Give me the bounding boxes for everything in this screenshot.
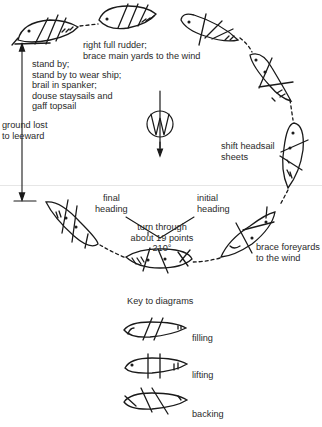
track-path <box>80 24 98 26</box>
shift-headsail-line: sheets <box>221 152 275 163</box>
ship-hull-5 <box>280 123 308 188</box>
brace-foreyards-line: to the wind <box>256 253 320 264</box>
stand-by-line: douse staysails and <box>32 91 121 102</box>
initial-heading-label: initial heading <box>197 193 230 214</box>
turn-line: turn through <box>127 222 197 233</box>
brace-foreyards-line: brace foreyards <box>256 242 320 253</box>
brace-foreyards-label: brace foreyards to the wind <box>256 242 320 263</box>
ground-lost-label: ground lost to leeward <box>2 120 47 141</box>
ground-lost-line: ground lost <box>2 120 47 131</box>
ground-lost-line: to leeward <box>2 131 47 142</box>
turn-label: turn through about 19 points 210° <box>127 222 197 254</box>
final-heading-label: final heading <box>95 193 128 214</box>
wind-arrow-icon <box>147 91 173 156</box>
key-label-lifting: lifting <box>192 370 213 381</box>
shift-headsail-label: shift headsail sheets <box>221 141 275 162</box>
key-backing-icon <box>124 388 187 414</box>
final-heading-line-text: heading <box>95 204 128 215</box>
track-path <box>240 38 252 52</box>
stand-by-line: stand by to wear ship; <box>32 70 121 81</box>
turn-line: about 19 points <box>127 233 197 244</box>
key-filling-icon <box>124 318 186 340</box>
rudder-line: right full rudder; <box>83 40 200 51</box>
initial-heading-line-text: heading <box>197 204 230 215</box>
turn-degrees: 210° <box>127 243 197 254</box>
key-title: Key to diagrams <box>127 296 193 307</box>
rudder-instructions: right full rudder; brace main yards to t… <box>83 40 200 61</box>
rudder-line: brace main yards to the wind <box>83 51 200 62</box>
stand-by-line: gaff topsail <box>32 101 121 112</box>
ship-hull-4 <box>250 54 293 101</box>
stand-by-line: brail in spanker; <box>32 80 121 91</box>
final-heading-line-text: final <box>95 193 128 204</box>
key-label-backing: backing <box>192 409 224 420</box>
track-path <box>290 100 293 120</box>
key-lifting-icon <box>125 354 187 378</box>
track-path <box>280 190 288 205</box>
ship-hull-2 <box>99 4 156 29</box>
initial-heading-line-text: initial <box>197 193 230 204</box>
key-label-filling: filling <box>192 333 213 344</box>
ship-hull-1 <box>12 15 78 45</box>
ship-hull-8 <box>46 200 98 248</box>
shift-headsail-line: shift headsail <box>221 141 275 152</box>
track-path <box>100 245 126 258</box>
track-path <box>193 258 220 262</box>
stand-by-instructions: stand by; stand by to wear ship; brail i… <box>32 59 121 112</box>
